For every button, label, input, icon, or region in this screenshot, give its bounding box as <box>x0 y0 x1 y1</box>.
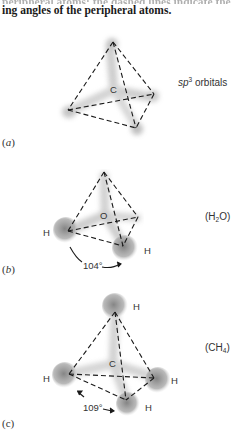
panel-label-b: (b) <box>2 263 15 275</box>
panel-label-a: (a) <box>2 136 15 148</box>
hydrogen-label-bottom: H <box>145 402 152 413</box>
sp3-orbitals-label: sp3 orbitals <box>178 77 227 88</box>
central-atom-label-a: C <box>110 84 117 95</box>
hydrogen-atom-right <box>112 235 138 261</box>
formula-label-b: (H2O) <box>205 211 230 222</box>
tetrahedral-figure <box>0 0 237 434</box>
hydrogen-label-right: H <box>144 245 151 256</box>
hydrogen-atom-right <box>145 367 171 393</box>
hydrogen-atom-bottom <box>116 392 140 416</box>
methane-lobes <box>72 315 152 398</box>
panel-c-diagram <box>52 293 171 416</box>
panel-label-c: (c) <box>2 417 14 429</box>
sp3-prefix: sp <box>178 77 189 88</box>
formula-label-c: (CH4) <box>205 342 230 353</box>
hydrogen-label-left: H <box>43 227 50 238</box>
bond-angle-label-b: 104° <box>83 260 103 271</box>
hydrogen-label-right: H <box>171 375 178 386</box>
sp3-suffix: orbitals <box>192 77 227 88</box>
bond-angle-label-c: 109° <box>83 402 103 413</box>
sp3-superscript: 3 <box>189 76 193 83</box>
central-atom-label-b: O <box>100 210 107 221</box>
panel-b-diagram <box>53 172 138 268</box>
hydrogen-atom-left <box>52 362 78 388</box>
hydrogen-label-top: H <box>133 301 140 312</box>
central-atom-label-c: C <box>109 358 116 369</box>
hydrogen-label-left: H <box>43 373 50 384</box>
hydrogen-atom-left <box>53 217 79 243</box>
